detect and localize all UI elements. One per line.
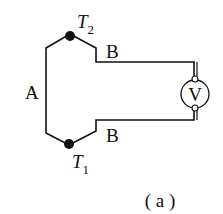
- wire-b-bottom-label: B: [106, 125, 119, 146]
- wire-a-label: A: [25, 82, 39, 103]
- voltmeter: V: [181, 76, 209, 111]
- wire-b-top: [70, 34, 194, 76]
- terminal-bottom: [192, 105, 198, 111]
- thermocouple-diagram: V T2 T1 A B B ( a ): [0, 0, 223, 214]
- t2-label: T2: [77, 11, 94, 37]
- junction-t1-dot: [64, 139, 74, 149]
- junction-t2-dot: [65, 31, 75, 41]
- meter-label: V: [188, 84, 202, 105]
- t1-label: T1: [72, 151, 89, 177]
- wire-a: [46, 34, 70, 145]
- wire-b-top-label: B: [106, 41, 119, 62]
- terminal-top: [192, 76, 198, 82]
- wire-b-bottom: [69, 108, 194, 145]
- caption: ( a ): [145, 190, 176, 212]
